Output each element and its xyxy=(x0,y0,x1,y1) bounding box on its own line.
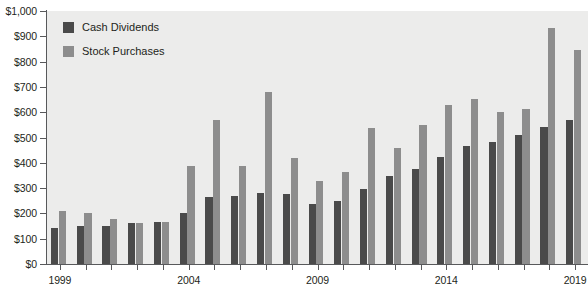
x-axis-label-2009: 2009 xyxy=(306,275,329,286)
y-axis-label: $1,000 xyxy=(5,6,37,16)
bar-purchases-2019 xyxy=(574,50,581,264)
y-axis-label: $700 xyxy=(14,82,37,92)
y-axis-label: $300 xyxy=(14,183,37,193)
x-axis-tick xyxy=(575,265,576,270)
x-axis-label-2014: 2014 xyxy=(435,275,458,286)
bar-purchases-2006 xyxy=(239,166,246,264)
bar-dividends-2002 xyxy=(128,223,135,264)
x-axis-tick xyxy=(137,265,138,270)
y-axis-tick xyxy=(40,239,46,240)
bar-dividends-2004 xyxy=(180,213,187,264)
x-axis-tick xyxy=(292,265,293,270)
x-axis-tick xyxy=(369,265,370,270)
bar-dividends-2007 xyxy=(257,193,264,264)
legend-label-cash-dividends: Cash Dividends xyxy=(82,22,159,33)
y-axis-label: $0 xyxy=(26,259,37,269)
bar-purchases-2018 xyxy=(548,28,555,264)
y-axis-label: $200 xyxy=(14,208,37,218)
bar-purchases-2002 xyxy=(136,223,143,264)
y-axis-tick xyxy=(40,264,46,265)
grouped-bar-chart: $0$100$200$300$400$500$600$700$800$900$1… xyxy=(0,0,588,295)
y-axis-label: $100 xyxy=(14,234,37,244)
y-axis-tick xyxy=(40,163,46,164)
bar-dividends-2016 xyxy=(489,142,496,264)
bar-dividends-2003 xyxy=(154,222,161,265)
legend-swatch-stock-purchases xyxy=(63,46,74,57)
bar-dividends-2009 xyxy=(309,204,316,264)
x-axis-tick xyxy=(240,265,241,270)
bar-purchases-2017 xyxy=(522,109,529,264)
y-axis-tick xyxy=(40,138,46,139)
bar-dividends-2019 xyxy=(566,120,573,264)
bar-dividends-2005 xyxy=(205,197,212,264)
y-axis-label: $600 xyxy=(14,107,37,117)
bar-purchases-2012 xyxy=(394,148,401,264)
bar-purchases-2003 xyxy=(162,222,169,265)
x-axis-label-2019: 2019 xyxy=(564,275,587,286)
bar-dividends-1999 xyxy=(51,228,58,264)
y-axis-tick xyxy=(40,213,46,214)
bar-dividends-2006 xyxy=(231,196,238,264)
y-axis-tick xyxy=(40,62,46,63)
x-axis-label-2004: 2004 xyxy=(177,275,200,286)
x-axis-tick xyxy=(214,265,215,270)
bar-purchases-2011 xyxy=(368,128,375,264)
bar-purchases-2016 xyxy=(497,112,504,264)
x-axis-tick xyxy=(111,265,112,270)
x-axis-tick xyxy=(86,265,87,270)
y-axis-tick xyxy=(40,112,46,113)
x-axis-tick xyxy=(343,265,344,270)
bar-dividends-2010 xyxy=(334,201,341,264)
legend-label-stock-purchases: Stock Purchases xyxy=(82,46,165,57)
bar-dividends-2018 xyxy=(540,127,547,264)
y-axis-label: $900 xyxy=(14,31,37,41)
x-axis-tick xyxy=(163,265,164,270)
bar-dividends-2017 xyxy=(515,135,522,264)
y-axis-tick xyxy=(40,11,46,12)
bar-dividends-2013 xyxy=(412,169,419,264)
bar-dividends-2011 xyxy=(360,189,367,264)
bar-dividends-2008 xyxy=(283,194,290,264)
bar-dividends-2012 xyxy=(386,176,393,264)
bar-purchases-2008 xyxy=(291,158,298,264)
x-axis-tick xyxy=(60,265,61,270)
x-axis-tick xyxy=(446,265,447,270)
y-axis-tick xyxy=(40,188,46,189)
bar-purchases-2005 xyxy=(213,120,220,264)
legend-item-stock-purchases[interactable]: Stock Purchases xyxy=(63,46,165,57)
bar-purchases-2007 xyxy=(265,92,272,264)
legend-item-cash-dividends[interactable]: Cash Dividends xyxy=(63,22,165,33)
y-axis-tick xyxy=(40,87,46,88)
legend-swatch-cash-dividends xyxy=(63,22,74,33)
bar-dividends-2015 xyxy=(463,146,470,264)
y-axis-tick xyxy=(40,36,46,37)
x-axis-tick xyxy=(395,265,396,270)
bar-dividends-2014 xyxy=(437,157,444,264)
y-axis-label: $400 xyxy=(14,158,37,168)
x-axis-label-1999: 1999 xyxy=(48,275,71,286)
bar-purchases-1999 xyxy=(59,211,66,264)
bar-purchases-2004 xyxy=(187,166,194,264)
x-axis-tick xyxy=(318,265,319,270)
bar-dividends-2001 xyxy=(102,226,109,264)
bar-purchases-2000 xyxy=(84,213,91,264)
y-axis-label: $800 xyxy=(14,57,37,67)
bar-dividends-2000 xyxy=(77,226,84,264)
x-axis-tick xyxy=(421,265,422,270)
legend: Cash Dividends Stock Purchases xyxy=(63,22,165,70)
bar-purchases-2015 xyxy=(471,99,478,264)
bar-purchases-2001 xyxy=(110,219,117,264)
bar-purchases-2009 xyxy=(316,181,323,264)
x-axis-tick xyxy=(472,265,473,270)
x-axis-tick xyxy=(498,265,499,270)
bar-purchases-2013 xyxy=(419,125,426,264)
x-axis-tick xyxy=(549,265,550,270)
y-axis-label: $500 xyxy=(14,133,37,143)
bar-purchases-2010 xyxy=(342,172,349,264)
x-axis-line xyxy=(46,264,588,265)
x-axis-tick xyxy=(524,265,525,270)
x-axis-tick xyxy=(189,265,190,270)
bar-purchases-2014 xyxy=(445,105,452,264)
x-axis-tick xyxy=(266,265,267,270)
